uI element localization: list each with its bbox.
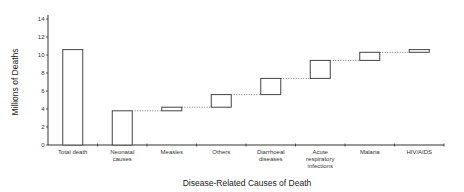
bar-malaria	[360, 52, 380, 60]
y-tick-label: 10	[38, 52, 45, 58]
category-label: infections	[308, 163, 333, 169]
y-tick-label: 0	[41, 142, 45, 148]
category-label: Others	[212, 149, 230, 155]
y-tick-label: 12	[38, 34, 45, 40]
category-label: Malaria	[360, 149, 380, 155]
category-label: HIV/AIDS	[406, 149, 432, 155]
category-label: Measles	[161, 149, 183, 155]
y-axis: 02468101214	[38, 15, 48, 148]
connector-lines	[132, 50, 431, 111]
category-label: Neonatal	[110, 149, 134, 155]
category-label: Acute	[313, 149, 329, 155]
y-tick-label: 4	[41, 106, 45, 112]
x-axis	[48, 144, 444, 147]
waterfall-chart: 02468101214 Total deathNeonatalcausesMea…	[0, 0, 464, 192]
bar-measles	[162, 107, 182, 111]
x-axis-title: Disease-Related Causes of Death	[183, 178, 312, 188]
category-label: Diarrhoeal	[257, 149, 285, 155]
category-label: causes	[113, 156, 132, 162]
y-tick-label: 2	[41, 124, 45, 130]
y-tick-label: 6	[41, 88, 45, 94]
bar-hiv-aids	[409, 50, 429, 53]
y-tick-label: 14	[38, 16, 45, 22]
bar-neonatal-causes	[112, 111, 132, 145]
bar-acute-respiratory-infections	[310, 60, 330, 78]
category-label: respiratory	[306, 156, 334, 162]
y-tick-label: 8	[41, 70, 45, 76]
category-label: Total death	[58, 149, 87, 155]
bar-others	[211, 95, 231, 108]
category-labels: Total deathNeonatalcausesMeaslesOthersDi…	[58, 149, 432, 169]
bars	[63, 50, 430, 145]
bar-total-death	[63, 50, 83, 145]
bar-diarrhoeal-diseases	[261, 78, 281, 94]
category-label: diseases	[259, 156, 283, 162]
y-axis-title: Millions of Deaths	[10, 48, 20, 115]
